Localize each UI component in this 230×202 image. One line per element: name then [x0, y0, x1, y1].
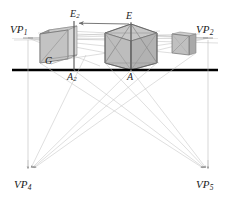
- label-e2: E2: [70, 9, 80, 20]
- label-vp1: VP1: [10, 24, 27, 36]
- vertical-arrowheads: [28, 160, 208, 169]
- label-g: G: [45, 56, 52, 66]
- label-a2: A2: [67, 72, 77, 83]
- label-vp2: VP2: [196, 24, 213, 36]
- label-vp4: VP4: [14, 179, 31, 191]
- label-e: E: [126, 11, 132, 21]
- e-to-e2-arrow: [79, 23, 129, 24]
- label-a: A: [127, 72, 133, 82]
- vanishing-rays-vp5: [40, 63, 206, 168]
- label-vp5: VP5: [196, 179, 213, 191]
- right-cube: [172, 32, 196, 55]
- figure-canvas: VP1 VP2 VP4 VP5 E E2 G A2 A: [0, 0, 230, 202]
